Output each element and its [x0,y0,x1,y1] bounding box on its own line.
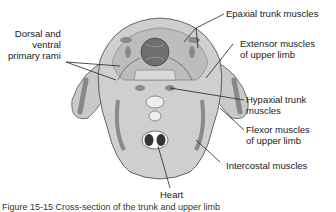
figure-caption: Figure 15-15 Cross-section of the trunk … [2,202,220,212]
label-line: of upper limb [246,135,310,146]
label-intercostal: Intercostal muscles [226,160,307,171]
label-hypaxial: Hypaxial trunk muscles [246,94,306,116]
label-line: Hypaxial trunk [246,94,306,105]
label-dorsal-ventral-rami: Dorsal and ventral primary rami [8,28,61,61]
label-epaxial: Epaxial trunk muscles [226,8,318,19]
label-heart: Heart [160,189,183,200]
label-line: ventral [8,39,61,50]
label-line: Flexor muscles [246,124,310,135]
label-line: primary rami [8,50,61,61]
label-flexor: Flexor muscles of upper limb [246,124,310,146]
label-line: of upper limb [240,49,315,60]
label-line: Dorsal and [8,28,61,39]
label-line: Extensor muscles [240,38,315,49]
label-line: muscles [246,105,306,116]
label-extensor: Extensor muscles of upper limb [240,38,315,60]
